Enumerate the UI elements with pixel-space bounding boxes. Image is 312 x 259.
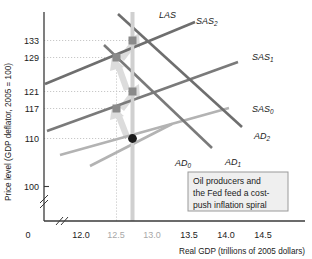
y-tick-label-110: 110 — [25, 134, 39, 144]
curve-label-AD1: AD1 — [224, 157, 242, 168]
y-tick-label-100: 100 — [24, 182, 39, 192]
curve-label-SAS2-text: SAS — [196, 16, 214, 26]
annotation-line-2: the Fed feed a cost- — [193, 188, 270, 198]
equilibrium-marker-129 — [113, 54, 121, 62]
x-tick-label-125: 12.5 — [107, 230, 125, 240]
curve-label-SAS2-sub: 2 — [213, 20, 218, 27]
curve-label-AD0-text: AD — [174, 158, 188, 168]
annotation-line-3: push inflation spiral — [193, 200, 267, 210]
curve-label-SAS2: SAS2 — [196, 16, 218, 27]
curve-label-AD2-sub: 2 — [266, 135, 271, 142]
equilibrium-marker-121 — [129, 88, 137, 96]
y-tick-label-117: 117 — [25, 104, 39, 114]
curve-label-LAS: LAS — [159, 10, 176, 20]
equilibrium-marker-133 — [129, 37, 137, 45]
curve-label-SAS0-text: SAS — [252, 104, 270, 114]
curve-label-AD0: AD0 — [174, 158, 192, 169]
curve-label-SAS0-sub: 0 — [270, 108, 274, 115]
y-tick-label-121: 121 — [24, 87, 39, 97]
x-tick-label-0: 0 — [25, 230, 30, 240]
annotation-line-1: Oil producers and — [193, 176, 261, 186]
curve-label-AD0-sub: 0 — [188, 162, 192, 169]
curve-label-SAS1-text: SAS — [252, 52, 270, 62]
x-tick-label-130: 13.0 — [143, 230, 161, 240]
y-tick-label-133: 133 — [24, 36, 39, 46]
x-tick-label-135: 13.5 — [180, 230, 198, 240]
chart-root: 133 129 121 117 110 100 0 12.0 12.5 13.0… — [0, 0, 312, 259]
x-tick-label-140: 14.0 — [217, 230, 235, 240]
annotation-box: Oil producers and the Fed feed a cost- p… — [188, 172, 288, 211]
equilibrium-marker-110 — [128, 134, 137, 143]
x-axis-title: Real GDP (trillions of 2005 dollars) — [179, 247, 305, 256]
curve-label-AD1-sub: 1 — [238, 161, 242, 168]
x-tick-label-120: 12.0 — [72, 230, 90, 240]
curve-label-LAS-text: LAS — [159, 10, 176, 20]
curve-label-AD1-text: AD — [224, 157, 238, 167]
curve-label-AD2-text: AD — [253, 131, 267, 141]
curve-AD2 — [118, 14, 242, 127]
as-ad-cost-push-spiral-chart: 133 129 121 117 110 100 0 12.0 12.5 13.0… — [0, 0, 312, 259]
curve-label-SAS1-sub: 1 — [270, 56, 274, 63]
y-tick-labels: 133 129 121 117 110 100 — [24, 36, 39, 192]
curve-label-SAS0: SAS0 — [252, 104, 274, 115]
curve-label-AD2: AD2 — [253, 131, 271, 142]
x-tick-labels: 0 12.0 12.5 13.0 13.5 14.0 14.5 — [25, 230, 271, 240]
curve-SAS0 — [60, 108, 229, 155]
x-tick-label-145: 14.5 — [254, 230, 272, 240]
spiral-arrows — [110, 33, 140, 138]
y-axis-title: Price level (GDP deflator, 2005 = 100) — [4, 63, 13, 201]
y-tick-label-129: 129 — [24, 53, 39, 63]
curve-labels: LAS SAS2 SAS1 SAS0 AD2 AD1 AD0 — [159, 10, 274, 169]
curve-label-SAS1: SAS1 — [252, 52, 274, 63]
equilibrium-marker-117 — [113, 105, 121, 113]
